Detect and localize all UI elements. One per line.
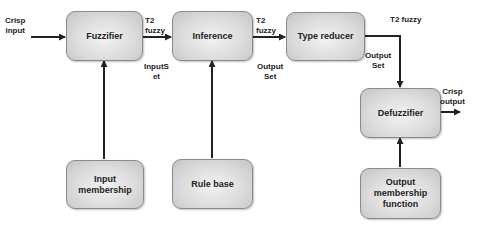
- output-set-label-2: Output Set: [365, 51, 391, 71]
- type-reducer-block: Type reducer: [286, 12, 365, 61]
- rule-base-label: Rule base: [191, 179, 234, 190]
- rule-base-block: Rule base: [172, 159, 253, 209]
- inference-label: Inference: [192, 31, 232, 42]
- output-membership-label: Output membership function: [368, 177, 434, 210]
- input-membership-label: Input membership: [75, 174, 135, 196]
- type-reducer-label: Type reducer: [298, 31, 354, 42]
- crisp-output-label: Crisp output: [440, 87, 465, 107]
- crisp-input-label: Crisp input: [5, 16, 25, 36]
- input-membership-block: Input membership: [66, 160, 144, 209]
- output-membership-block: Output membership function: [360, 168, 441, 219]
- t2-fuzzy-label-1: T2 fuzzy: [145, 16, 165, 36]
- t2-fuzzy-label-2: T2 fuzzy: [256, 16, 276, 36]
- defuzzifier-label: Defuzzifier: [378, 108, 424, 119]
- fuzzifier-label: Fuzzifier: [86, 31, 123, 42]
- t2-fuzzy-label-3: T2 fuzzy: [390, 15, 422, 25]
- inference-block: Inference: [172, 11, 253, 61]
- defuzzifier-block: Defuzzifier: [360, 88, 441, 138]
- input-set-label: InputS et: [144, 62, 169, 82]
- output-set-label-1: Output Set: [257, 62, 283, 82]
- fuzzifier-block: Fuzzifier: [66, 11, 143, 61]
